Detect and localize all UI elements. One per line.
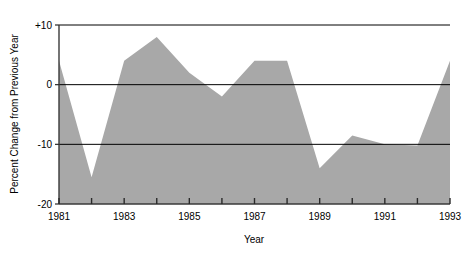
y-axis-title: Percent Change from Previous Year: [9, 34, 20, 194]
x-tick-label-1981: 1981: [48, 211, 71, 222]
chart-container: 1981198319851987198919911993 +100-10-20 …: [0, 0, 476, 255]
y-tick-label-0: 0: [46, 79, 52, 90]
x-tick-label-1993: 1993: [439, 211, 462, 222]
x-tick-label-1985: 1985: [178, 211, 201, 222]
y-tick-label-10: +10: [35, 20, 52, 31]
x-axis-tick-labels: 1981198319851987198919911993: [48, 211, 462, 222]
y-tick-label--20: -20: [38, 199, 53, 210]
area-chart: 1981198319851987198919911993 +100-10-20 …: [0, 0, 476, 255]
y-axis-tick-labels: +100-10-20: [35, 20, 52, 210]
x-tick-label-1991: 1991: [374, 211, 397, 222]
x-axis-title: Year: [244, 234, 265, 245]
y-tick-label--10: -10: [38, 139, 53, 150]
x-tick-label-1983: 1983: [113, 211, 136, 222]
x-tick-label-1989: 1989: [309, 211, 332, 222]
x-tick-label-1987: 1987: [243, 211, 266, 222]
